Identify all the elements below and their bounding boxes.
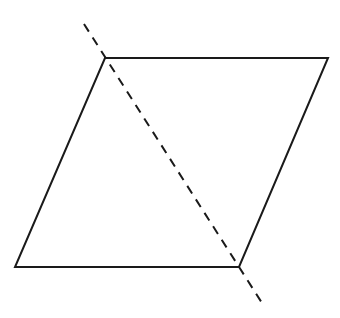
dashed-diagonal-line — [84, 24, 262, 303]
parallelogram-diagram — [0, 0, 340, 318]
